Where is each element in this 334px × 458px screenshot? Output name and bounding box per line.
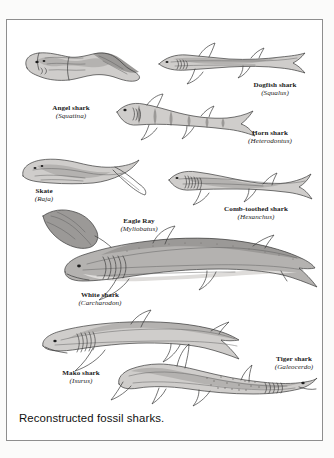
label-genus-name: (Carcharodon) (53, 300, 147, 308)
label-genus-name: (Heterodontus) (219, 138, 321, 146)
label-genus-name: (Squatina) (29, 113, 113, 121)
label-genus-name: (Galeocerdo) (251, 364, 334, 372)
label-genus-name: (Hexanchus) (201, 214, 311, 222)
label-tiger-shark: Tiger shark (Galeocerdo) (251, 356, 334, 371)
label-angel-shark: Angel shark (Squatina) (29, 105, 113, 120)
label-horn-shark: Horn shark (Heterodontus) (219, 130, 321, 145)
label-genus-name: (Isurus) (39, 378, 123, 386)
specimen-illustration-angel-shark (15, 34, 145, 96)
illustration-plate: Angel shark (Squatina) (7, 20, 322, 398)
label-white-shark: White shark (Carcharodon) (53, 292, 147, 307)
label-comb-toothed-shark: Comb-toothed shark (Hexanchus) (201, 206, 311, 221)
figure-caption-bar: Reconstructed fossil sharks. (7, 398, 322, 440)
figure-page: Angel shark (Squatina) (0, 0, 334, 458)
figure-frame: Angel shark (Squatina) (6, 19, 323, 441)
figure-caption: Reconstructed fossil sharks. (19, 412, 164, 424)
label-mako-shark: Mako shark (Isurus) (39, 370, 123, 385)
label-genus-name: (Raja) (15, 196, 73, 204)
specimen-illustration-comb-toothed-shark (165, 160, 315, 208)
label-skate: Skate (Raja) (15, 188, 73, 203)
